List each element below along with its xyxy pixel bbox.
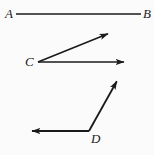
geometry-figure: A B C D — [0, 0, 154, 155]
angle-d-upper-ray — [89, 81, 117, 131]
point-label-c: C — [25, 55, 34, 68]
point-label-b: B — [143, 7, 151, 20]
angle-c-upper-ray — [38, 34, 108, 62]
point-label-d: D — [91, 132, 100, 145]
figure-canvas — [0, 0, 154, 155]
point-label-a: A — [5, 7, 13, 20]
